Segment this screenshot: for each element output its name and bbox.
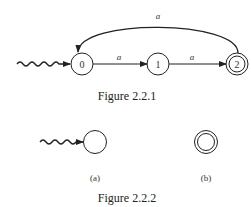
accepting-state-inner-b [198,134,215,151]
figure-1-caption: Figure 2.2.1 [98,89,156,104]
transition-0-1-label: a [117,52,122,62]
state-0-label: 0 [80,59,85,70]
part-b-label: (b) [201,173,212,183]
transition-1-2-label: a [190,52,195,62]
transition-2-0 [78,27,238,53]
figure-2-caption: Figure 2.2.2 [98,191,156,206]
initial-arrow-squiggle-a [40,140,83,144]
part-a-label: (a) [90,173,100,183]
initial-arrow-squiggle [17,62,70,66]
transition-2-0-label: a [156,11,161,21]
initial-state-circle-a [84,131,107,154]
state-1-label: 1 [156,59,161,70]
diagram-canvas [0,0,251,207]
state-2-label: 2 [235,59,240,70]
